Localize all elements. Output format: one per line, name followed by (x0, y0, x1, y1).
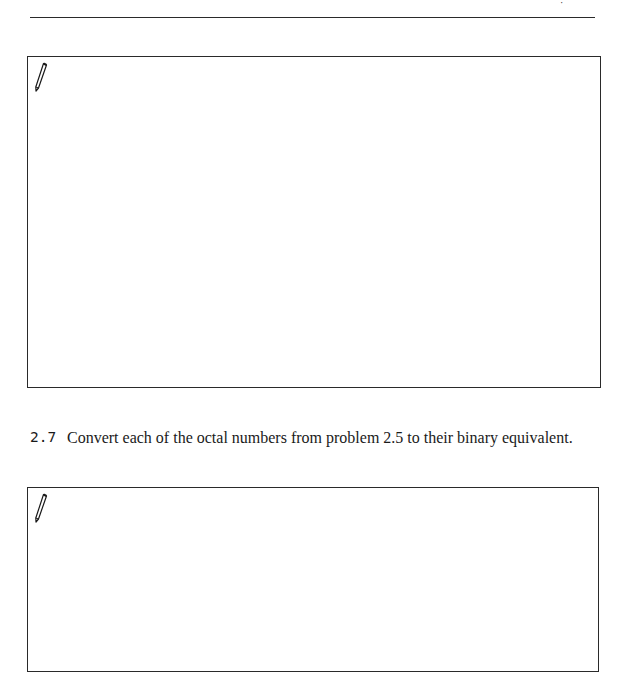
answer-box-previous-problem (27, 56, 601, 388)
header-rule (30, 17, 595, 18)
running-header-fragment: · (560, 0, 600, 10)
pencil-icon (34, 61, 48, 93)
pencil-icon (34, 492, 48, 524)
answer-box-problem-2-7 (27, 487, 599, 672)
problem-number: 2.7 (30, 428, 66, 447)
problem-text: Convert each of the octal numbers from p… (67, 428, 592, 447)
